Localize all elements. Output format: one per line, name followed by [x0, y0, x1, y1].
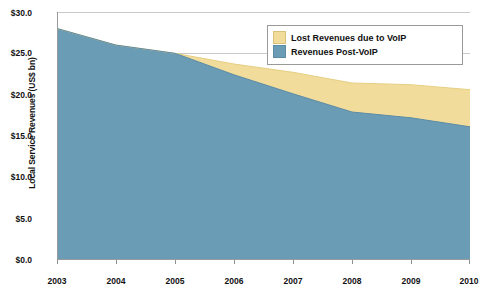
x-tick-label-2006: 2006	[211, 276, 257, 286]
y-tick-label-0: $0.0	[0, 255, 32, 265]
x-tick-2010	[469, 260, 470, 264]
legend-item-lost-revenues: Lost Revenues due to VoIP	[273, 31, 457, 44]
x-tick-label-2003: 2003	[34, 276, 80, 286]
legend-label-revenues-post-voip: Revenues Post-VoIP	[291, 47, 378, 57]
y-tick-label-5: $5.0	[0, 214, 32, 224]
x-tick-2006	[234, 260, 235, 264]
legend-item-revenues-post-voip: Revenues Post-VoIP	[273, 45, 457, 58]
x-tick-label-2004: 2004	[93, 276, 139, 286]
legend-swatch-lost-revenues-icon	[273, 31, 286, 44]
legend-swatch-revenues-post-voip-icon	[273, 45, 286, 58]
y-tick-label-30: $30.0	[0, 8, 32, 18]
x-tick-2003	[57, 260, 58, 264]
y-tick-label-15: $15.0	[0, 131, 32, 141]
legend-label-lost-revenues: Lost Revenues due to VoIP	[291, 33, 406, 43]
x-tick-2008	[352, 260, 353, 264]
x-tick-label-2008: 2008	[329, 276, 375, 286]
y-tick-label-10: $10.0	[0, 172, 32, 182]
y-tick-label-20: $20.0	[0, 90, 32, 100]
chart-legend: Lost Revenues due to VoIP Revenues Post-…	[267, 25, 463, 65]
x-tick-2009	[411, 260, 412, 264]
x-tick-label-2009: 2009	[388, 276, 434, 286]
x-tick-label-2005: 2005	[152, 276, 198, 286]
x-tick-label-2010: 2010	[446, 276, 490, 286]
x-tick-2007	[293, 260, 294, 264]
x-tick-2004	[116, 260, 117, 264]
x-tick-label-2007: 2007	[270, 276, 316, 286]
y-tick-label-25: $25.0	[0, 48, 32, 58]
chart-container: Local Service Revenues (US$ bn) $	[0, 0, 490, 288]
x-tick-2005	[175, 260, 176, 264]
